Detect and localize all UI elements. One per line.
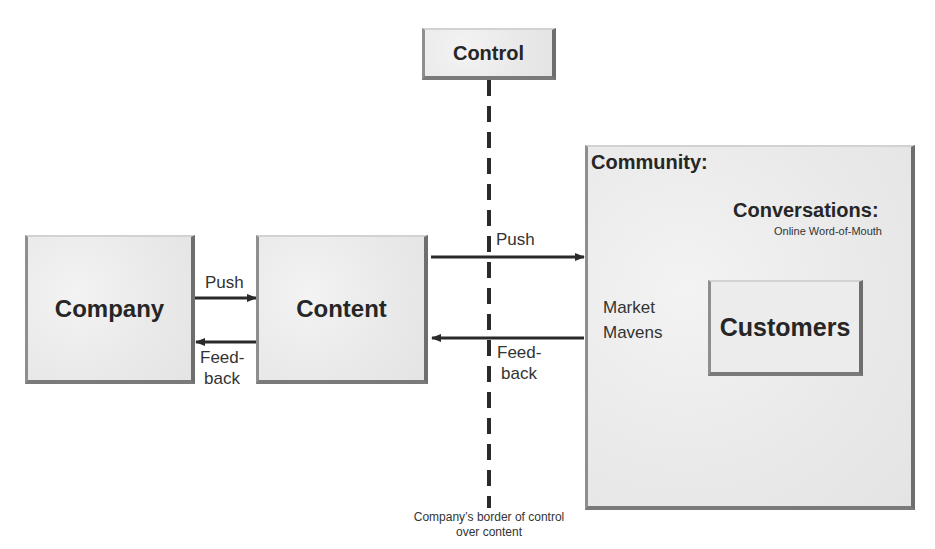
feedback-line2-right: back xyxy=(497,363,541,384)
push-label-company-content: Push xyxy=(205,272,244,293)
border-of-control-caption: Company’s border of control over content xyxy=(384,510,594,540)
company-label: Company xyxy=(55,295,164,323)
conversations-label: Conversations: xyxy=(733,199,879,222)
market-mavens-line2: Mavens xyxy=(603,320,663,345)
market-mavens-label: Market Mavens xyxy=(603,295,663,345)
conversations-sublabel: Online Word-of-Mouth xyxy=(748,224,908,239)
customers-label: Customers xyxy=(720,313,851,342)
community-label: Community: xyxy=(591,151,708,174)
control-label: Control xyxy=(453,42,524,65)
feedback-line1: Feed- xyxy=(200,347,244,368)
customers-node: Customers xyxy=(708,280,863,376)
content-label: Content xyxy=(296,295,387,323)
feedback-label-content-company: Feed- back xyxy=(200,347,244,389)
push-label-content-community: Push xyxy=(496,229,535,250)
control-node: Control xyxy=(422,28,556,80)
market-mavens-line1: Market xyxy=(603,295,663,320)
company-node: Company xyxy=(25,235,195,384)
border-caption-line2: over content xyxy=(384,525,594,540)
border-caption-line1: Company’s border of control xyxy=(384,510,594,525)
feedback-line2: back xyxy=(200,368,244,389)
feedback-label-community-content: Feed- back xyxy=(497,342,541,384)
feedback-line1-right: Feed- xyxy=(497,342,541,363)
content-node: Content xyxy=(256,235,428,384)
